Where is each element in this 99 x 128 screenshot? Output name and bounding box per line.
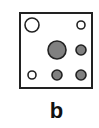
panel-label: b xyxy=(0,98,99,124)
circle-top-right xyxy=(77,21,85,29)
circle-middle-right xyxy=(76,45,86,55)
dot-grid-panel xyxy=(19,12,93,89)
circle-bottom-left xyxy=(28,71,36,79)
circle-top-left xyxy=(25,18,39,32)
circle-center xyxy=(48,41,66,59)
circle-bottom-middle xyxy=(52,70,62,80)
dot-grid-figure xyxy=(19,12,93,89)
circle-bottom-right xyxy=(76,70,86,80)
circles-group xyxy=(25,18,86,80)
